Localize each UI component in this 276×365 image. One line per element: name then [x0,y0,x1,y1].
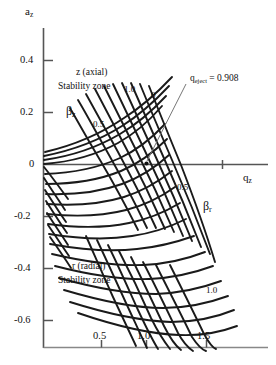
origin-fan-6 [50,237,71,268]
q-eject-value: = 0.908 [209,73,238,83]
x-tick-label-1.5: 1.5 [197,331,210,342]
chart-canvas [0,0,276,365]
q-eject-subscript: eject [195,77,207,84]
y-tick-label-0.4: 0.4 [20,55,33,66]
curve-label-beta-z-1.0: 1.0 [124,85,135,94]
x-tick-label-1.0: 1.0 [137,331,150,342]
radial-zone-line-2: Stability zone [58,276,111,286]
curve-label-beta-z-0.5: 0.5 [93,120,104,129]
y-axis-title: az [25,6,33,17]
curve-label-beta-r-0.5: 0.5 [177,183,188,192]
origin-fan [44,167,71,268]
radial-zone-line-1: r (radial) [72,262,106,272]
axial-zone-line-1: z (axial) [76,68,107,78]
q-eject-point-marker [144,161,148,165]
curve-label-beta-r-1.0: 1.0 [206,286,217,295]
y-tick-label-0: 0 [29,159,34,170]
axial-zone-line-2: Stability zone [58,82,111,92]
beta-r-label: βr [203,200,212,212]
y-tick-label-neg0.6: -0.6 [14,315,31,326]
curve-label-beta-z-0: 0 [151,91,156,100]
stability-diagram-figure: az qz 0.4 0.2 0 -0.2 -0.4 -0.6 0.5 1.0 1… [0,0,276,365]
y-tick-label-neg0.4: -0.4 [14,263,31,274]
y-tick-label-neg0.2: -0.2 [14,211,31,222]
q-eject-annotation: qeject = 0.908 [190,74,238,84]
beta-r-subscript: r [209,205,212,214]
y-tick-label-0.2: 0.2 [20,107,33,118]
x-tick-label-0.5: 0.5 [93,331,106,342]
y-axis-subscript: z [30,10,33,19]
x-axis-title: qz [243,172,252,183]
beta-z-subscript: z [72,110,76,119]
x-axis-subscript: z [249,176,252,185]
beta-z-label: βz [66,105,76,117]
iso-beta-r-curves [70,83,215,262]
